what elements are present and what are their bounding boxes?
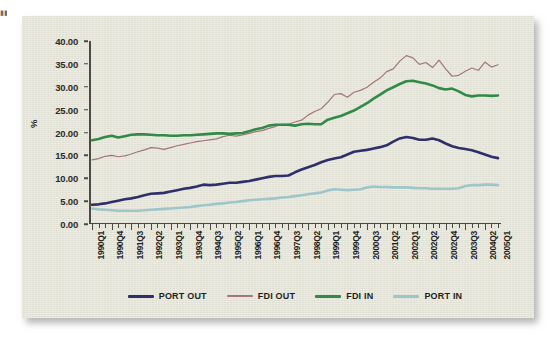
x-tick-mark xyxy=(393,224,394,228)
x-tick-mark xyxy=(315,224,316,228)
x-tick-mark xyxy=(459,224,460,228)
y-tick-mark xyxy=(84,86,88,88)
x-tick-mark xyxy=(157,224,158,228)
x-tick-label: 2002Q1 xyxy=(410,231,420,259)
x-tick-label: 1996Q4 xyxy=(272,231,282,259)
x-tick-label: 1996Q1 xyxy=(253,231,263,259)
y-tick-label: 20.00 xyxy=(26,127,78,138)
legend-item-port-out[interactable]: PORT OUT xyxy=(128,291,207,301)
x-tick-mark xyxy=(439,224,440,228)
x-tick-label: 1997Q3 xyxy=(292,231,302,259)
y-tick-label: 30.00 xyxy=(26,81,78,92)
x-tick-mark xyxy=(262,224,263,228)
y-tick-mark xyxy=(84,63,88,65)
x-tick-mark xyxy=(419,224,420,228)
plot-area xyxy=(89,41,501,224)
x-tick-label: 2005Q1 xyxy=(502,231,512,259)
x-tick-mark xyxy=(374,224,375,228)
x-tick-label: 1999Q4 xyxy=(351,231,361,259)
x-tick-mark xyxy=(341,224,342,228)
x-tick-mark xyxy=(131,224,132,230)
legend-item-fdi-in[interactable]: FDI IN xyxy=(315,291,373,301)
y-tick-label: 40.00 xyxy=(26,36,78,47)
legend-swatch-icon xyxy=(128,295,154,298)
x-tick-mark xyxy=(302,224,303,228)
y-axis-labels: 0.005.0010.0015.0020.0025.0030.0035.0040… xyxy=(22,41,84,224)
x-tick-mark xyxy=(328,224,329,230)
y-tick-label: 5.00 xyxy=(26,196,78,207)
x-tick-mark xyxy=(203,224,204,228)
x-axis-labels: 1990Q11990Q41991Q31992Q21993Q11993Q41994… xyxy=(89,231,501,281)
x-tick-label: 1999Q1 xyxy=(331,231,341,259)
x-tick-mark xyxy=(210,224,211,230)
series-lines xyxy=(89,41,501,224)
x-tick-mark xyxy=(151,224,152,230)
x-tick-label: 2001Q2 xyxy=(390,231,400,259)
x-tick-label: 1993Q1 xyxy=(174,231,184,259)
x-tick-mark xyxy=(275,224,276,228)
legend-label: FDI IN xyxy=(346,291,373,301)
x-tick-mark xyxy=(426,224,427,230)
x-tick-mark xyxy=(406,224,407,230)
x-tick-mark xyxy=(118,224,119,228)
y-tick-mark xyxy=(84,109,88,111)
y-tick-mark xyxy=(84,223,88,225)
x-tick-label: 2002Q2 xyxy=(429,231,439,259)
x-tick-mark xyxy=(256,224,257,228)
x-axis-ticks xyxy=(89,224,501,231)
y-tick-label: 35.00 xyxy=(26,58,78,69)
x-tick-mark xyxy=(288,224,289,230)
x-tick-mark xyxy=(321,224,322,228)
legend-label: FDI OUT xyxy=(258,291,295,301)
x-tick-mark xyxy=(347,224,348,230)
x-tick-mark xyxy=(282,224,283,228)
x-tick-mark xyxy=(184,224,185,228)
x-tick-label: 2004Q2 xyxy=(488,231,498,259)
x-tick-label: 2003Q3 xyxy=(469,231,479,259)
y-tick-mark xyxy=(84,40,88,42)
x-tick-mark xyxy=(236,224,237,228)
x-tick-mark xyxy=(485,224,486,230)
x-tick-mark xyxy=(452,224,453,228)
y-tick-label: 25.00 xyxy=(26,104,78,115)
legend-label: PORT OUT xyxy=(159,291,207,301)
x-tick-label: 1993Q4 xyxy=(194,231,204,259)
y-tick-mark xyxy=(84,178,88,180)
y-tick-mark xyxy=(84,155,88,157)
x-tick-mark xyxy=(295,224,296,228)
x-tick-mark xyxy=(413,224,414,228)
x-tick-mark xyxy=(190,224,191,230)
x-tick-mark xyxy=(230,224,231,230)
y-tick-mark xyxy=(84,132,88,134)
x-tick-mark xyxy=(400,224,401,228)
x-tick-label: 2002Q4 xyxy=(449,231,459,259)
x-tick-mark xyxy=(498,224,499,228)
y-tick-label: 15.00 xyxy=(26,150,78,161)
x-tick-mark xyxy=(216,224,217,228)
x-tick-mark xyxy=(197,224,198,228)
x-tick-mark xyxy=(138,224,139,228)
y-axis-title: % xyxy=(28,120,39,128)
legend-item-fdi-out[interactable]: FDI OUT xyxy=(227,291,295,301)
x-tick-mark xyxy=(478,224,479,228)
x-tick-mark xyxy=(164,224,165,228)
x-tick-mark xyxy=(223,224,224,228)
legend-swatch-icon xyxy=(393,295,419,298)
legend-swatch-icon xyxy=(315,295,341,298)
x-tick-mark xyxy=(491,224,492,228)
series-line-fdi-out xyxy=(92,56,498,160)
series-line-port-in xyxy=(92,185,498,211)
x-tick-mark xyxy=(367,224,368,230)
y-tick-label: 10.00 xyxy=(26,173,78,184)
x-tick-label: 1994Q3 xyxy=(213,231,223,259)
x-tick-mark xyxy=(334,224,335,228)
x-tick-mark xyxy=(472,224,473,228)
chart-legend: PORT OUTFDI OUTFDI INPORT IN xyxy=(89,288,501,304)
legend-item-port-in[interactable]: PORT IN xyxy=(393,291,462,301)
x-tick-mark xyxy=(171,224,172,230)
x-tick-mark xyxy=(112,224,113,230)
x-tick-mark xyxy=(144,224,145,228)
x-tick-label: 1991Q3 xyxy=(135,231,145,259)
x-tick-mark xyxy=(243,224,244,228)
x-tick-mark xyxy=(105,224,106,228)
